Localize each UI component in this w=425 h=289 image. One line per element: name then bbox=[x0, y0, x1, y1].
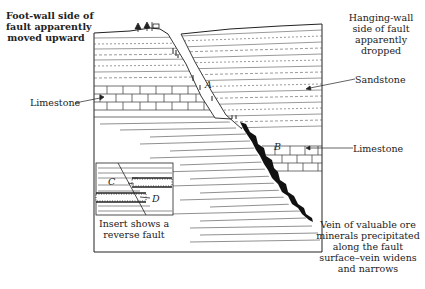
hangingwall-sandstone bbox=[180, 30, 322, 129]
point-a-label: A bbox=[205, 79, 212, 90]
leader-lines bbox=[75, 79, 355, 150]
limestone-left-label: Limestone bbox=[30, 97, 80, 108]
limestone-right-label: Limestone bbox=[353, 143, 403, 154]
vein-caption: Vein of valuable ore minerals precipitat… bbox=[312, 219, 424, 274]
footwall-sandstone bbox=[94, 37, 200, 78]
ore-vein bbox=[240, 122, 313, 222]
footwall-limestone bbox=[94, 86, 220, 117]
insert-caption: Insert shows a reverse fault bbox=[92, 218, 176, 240]
sandstone-label: Sandstone bbox=[355, 74, 406, 85]
point-d-label: D bbox=[152, 193, 160, 204]
insert-reverse-fault bbox=[96, 163, 173, 215]
point-b-label: B bbox=[274, 141, 281, 152]
point-c-label: C bbox=[108, 176, 115, 187]
footwall-label: Foot-wall side of fault apparently moved… bbox=[6, 10, 86, 43]
surface-markers bbox=[135, 22, 159, 32]
hangingwall-label: Hanging-wall side of fault apparently dr… bbox=[340, 12, 422, 56]
